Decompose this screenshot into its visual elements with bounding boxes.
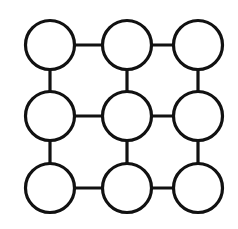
node-circle-n22	[174, 164, 223, 213]
node-circle-n00	[26, 21, 75, 70]
node-circle-n01	[103, 21, 152, 70]
node-circle-n20	[26, 164, 75, 213]
node-circle-n21	[103, 164, 152, 213]
node-circle-n02	[174, 21, 223, 70]
grid-graph-diagram	[0, 0, 238, 229]
node-circle-n11	[103, 92, 152, 141]
node-circle-n10	[26, 92, 75, 141]
node-circle-n12	[174, 92, 223, 141]
nodes-group	[26, 21, 223, 213]
